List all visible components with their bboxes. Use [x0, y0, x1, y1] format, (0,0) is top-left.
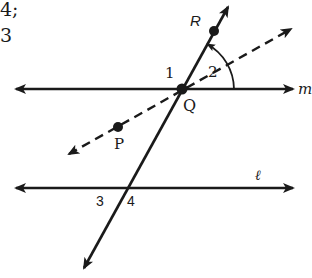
line-l-label: ℓ [255, 167, 261, 183]
angle-2-label: 2 [208, 63, 218, 81]
point-p-label: P [114, 135, 124, 153]
point-q [177, 84, 188, 95]
point-r-label: R [190, 12, 201, 29]
angle-4-label: 4 [127, 193, 135, 209]
angle-3-label: 3 [96, 193, 104, 209]
line-m-label: m [298, 80, 312, 98]
geometry-diagram: m ℓ R Q P 1 2 3 4 [0, 0, 312, 278]
point-r [209, 26, 219, 36]
point-q-label: Q [183, 96, 196, 115]
point-p [113, 122, 123, 132]
angle-1-label: 1 [165, 64, 175, 82]
transversal-line [84, 7, 228, 268]
